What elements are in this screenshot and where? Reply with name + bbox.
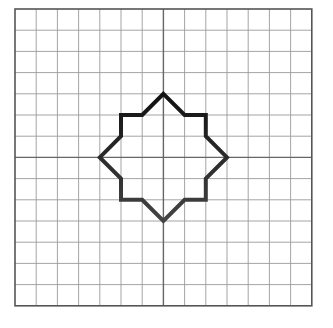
- grid-diagram: [0, 0, 333, 328]
- center-axes: [15, 9, 312, 306]
